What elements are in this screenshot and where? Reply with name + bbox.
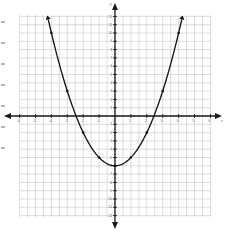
data-point [82, 131, 85, 134]
x-tick-label: 2 [145, 119, 147, 123]
data-point [161, 90, 164, 93]
y-axis-up-arrow-icon [112, 3, 118, 10]
y-axis-label: y [109, 2, 112, 6]
data-point [114, 165, 117, 168]
x-tick-label: 0 [113, 119, 115, 123]
x-tick-label: 5 [193, 119, 195, 123]
y-tick-label: 3 [110, 89, 112, 93]
y-tick-label: 12 [109, 15, 113, 19]
y-axis-down-arrow-icon [112, 222, 118, 229]
x-tick-label: -4 [49, 119, 52, 123]
x-tick-label: 1 [129, 119, 131, 123]
margin-marks [1, 22, 5, 148]
x-tick-label: 4 [177, 119, 179, 123]
y-tick-label: 1 [110, 106, 112, 110]
x-tick-label: -5 [33, 119, 36, 123]
y-tick-label: -10 [108, 197, 113, 201]
y-tick-label: -1 [109, 122, 112, 126]
y-tick-label: 2 [110, 98, 112, 102]
y-tick-label: 6 [110, 64, 112, 68]
y-tick-label: -4 [109, 147, 112, 151]
x-tick-label: -1 [97, 119, 100, 123]
coordinate-plane: -6-5-4-3-2-10123456-12-11-10-9-8-7-6-5-4… [0, 0, 225, 235]
y-tick-label: -3 [109, 139, 112, 143]
y-tick-label: 5 [110, 73, 112, 77]
y-tick-label: -9 [109, 189, 112, 193]
y-tick-label: 10 [109, 31, 113, 35]
x-axis-label: x [220, 119, 223, 123]
data-point [98, 156, 101, 159]
x-tick-label: -3 [65, 119, 68, 123]
y-tick-label: 9 [110, 39, 112, 43]
y-tick-label: -5 [109, 156, 112, 160]
y-tick-label: 7 [110, 56, 112, 60]
axes [4, 3, 222, 229]
y-tick-label: -12 [108, 214, 113, 218]
y-tick-label: 8 [110, 48, 112, 52]
x-tick-label: 3 [161, 119, 163, 123]
y-tick-label: -2 [109, 131, 112, 135]
y-tick-label: 4 [110, 81, 112, 85]
y-tick-label: -11 [108, 205, 113, 209]
data-point [177, 32, 180, 35]
y-tick-label: -8 [109, 181, 112, 185]
data-point [146, 131, 149, 134]
data-point [130, 156, 133, 159]
x-axis-left-arrow-icon [4, 113, 11, 119]
x-tick-label: -2 [81, 119, 84, 123]
data-point [50, 32, 53, 35]
tick-labels: -6-5-4-3-2-10123456-12-11-10-9-8-7-6-5-4… [17, 2, 223, 218]
y-tick-label: 11 [109, 23, 113, 27]
y-tick-label: -7 [109, 172, 112, 176]
x-tick-label: 6 [209, 119, 211, 123]
data-point [66, 90, 69, 93]
x-tick-label: -6 [17, 119, 20, 123]
